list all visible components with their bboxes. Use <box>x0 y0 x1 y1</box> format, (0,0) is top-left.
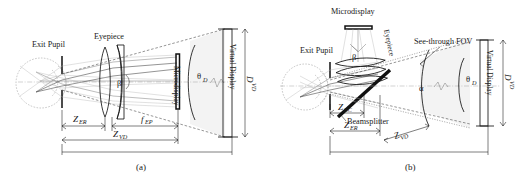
panel-a-zer-subscript: ER <box>78 118 87 125</box>
panel-a-exit-pupil-label: Exit Pupil <box>32 40 66 49</box>
panel-b-zvd-dimension: Z VD <box>384 124 429 143</box>
panel-b-eyepiece-label: Eyepiece <box>382 29 397 58</box>
panel-a-dvd-subscript: VD <box>251 83 258 92</box>
panel-b-alpha-symbol: α <box>419 83 424 93</box>
panel-b-virtual-display-label: Virtual Display <box>485 50 494 96</box>
figure-svg: Exit Pupil Eyepiece <box>0 0 531 177</box>
panel-a-beta-symbol: β <box>117 78 121 88</box>
panel-a-eye <box>16 58 66 108</box>
panel-a-eyepiece-label: Eyepiece <box>94 32 124 41</box>
panel-b-beta-symbol: β <box>352 52 356 62</box>
panel-a: Exit Pupil Eyepiece <box>16 29 258 172</box>
panel-a-virtual-display-label: Virtual Display <box>228 44 237 90</box>
panel-a-baseline <box>62 137 232 155</box>
optical-figure: Exit Pupil Eyepiece <box>0 0 531 177</box>
panel-b-zvd-subscript: VD <box>399 132 409 141</box>
panel-b-microdisplay <box>345 26 372 29</box>
panel-b-dvd-subscript: VD <box>509 81 516 90</box>
panel-a-dvd-symbol: D <box>245 75 255 83</box>
panel-b-microdisplay-label: Microdisplay <box>331 7 376 16</box>
panel-b: Exit Pupil Microdisplay β Eyepiece <box>280 7 516 172</box>
panel-b-microdisplay-rays: β <box>341 29 377 62</box>
panel-a-zer-dimension: Z ER <box>62 110 105 131</box>
panel-b-exit-pupil-label: Exit Pupil <box>300 46 334 55</box>
panel-b-theta-subscript: D <box>471 79 477 86</box>
panel-a-fep-subscript: EP <box>144 118 153 125</box>
panel-a-microdisplay-label: Microdisplay <box>172 66 181 106</box>
panel-b-dvd-symbol: D <box>503 73 513 81</box>
panel-b-zec-subscript: EC <box>343 106 353 113</box>
panel-b-zer-subscript: ER <box>349 124 358 131</box>
panel-a-theta-symbol: θ <box>197 71 201 81</box>
panel-b-dvd-dimension: D VD <box>500 40 516 126</box>
panel-a-dvd-dimension: D VD <box>242 29 258 137</box>
panel-a-zvd-subscript: VD <box>119 133 128 140</box>
panel-a-theta-subscript: D <box>202 76 208 83</box>
panel-b-caption: (b) <box>405 162 416 172</box>
panel-b-see-through-fov-label: See-through FOV <box>414 37 473 46</box>
panel-a-zvd-dimension: Z VD <box>62 129 178 143</box>
panel-b-theta-symbol: θ <box>466 74 470 84</box>
panel-a-caption: (a) <box>136 162 146 172</box>
